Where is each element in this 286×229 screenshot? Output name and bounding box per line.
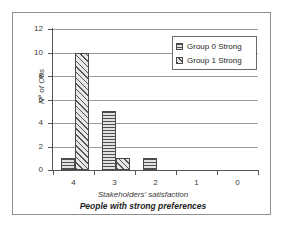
y-tick-label-12: 12: [34, 25, 43, 33]
legend-entry-group-1: Group 1 Strong: [176, 53, 253, 67]
x-tick-2: [135, 171, 136, 175]
bar-group0-cat3: [102, 111, 116, 170]
x-tick-0: [53, 171, 54, 175]
y-axis-title: N° of Obs: [37, 69, 46, 104]
figure-canvas: 12 10 8 6 4 2 0 4 3 2 1 0 Group 0 Strong…: [0, 0, 286, 229]
y-tick-12: [48, 29, 53, 30]
x-tick-label-3: 3: [105, 178, 125, 187]
bar-group1-cat3: [116, 158, 130, 170]
y-tick-label-10: 10: [34, 49, 43, 57]
x-tick-label-4: 4: [64, 178, 84, 187]
legend-entry-group-0: Group 0 Strong: [176, 39, 253, 53]
x-tick-1: [94, 171, 95, 175]
y-tick-label-2: 2: [39, 143, 43, 151]
bar-group0-cat2: [143, 158, 157, 170]
y-tick-label-0: 0: [39, 166, 43, 174]
y-tick-8: [48, 76, 53, 77]
y-tick-10: [48, 53, 53, 54]
diagonal-hatch-swatch-icon: [176, 57, 183, 64]
y-tick-label-4: 4: [39, 119, 43, 127]
chart-legend: Group 0 Strong Group 1 Strong: [172, 36, 257, 70]
bar-group0-cat4: [61, 158, 75, 170]
x-tick-label-2: 2: [146, 178, 166, 187]
x-axis-title: Stakeholders' satisfaction: [0, 190, 286, 199]
chart-subtitle: People with strong preferences: [0, 201, 286, 211]
horizontal-stripe-swatch-icon: [176, 43, 183, 50]
x-tick-4: [217, 171, 218, 175]
x-tick-label-0: 0: [228, 178, 248, 187]
y-tick-2: [48, 147, 53, 148]
legend-label-group-1: Group 1 Strong: [187, 56, 242, 65]
x-tick-label-1: 1: [187, 178, 207, 187]
y-tick-4: [48, 123, 53, 124]
gridline-12: [53, 29, 258, 30]
x-tick-5: [258, 171, 259, 175]
bar-group1-cat4: [75, 53, 89, 171]
legend-label-group-0: Group 0 Strong: [187, 42, 242, 51]
x-axis-line: [52, 170, 259, 171]
x-tick-3: [176, 171, 177, 175]
y-tick-6: [48, 100, 53, 101]
